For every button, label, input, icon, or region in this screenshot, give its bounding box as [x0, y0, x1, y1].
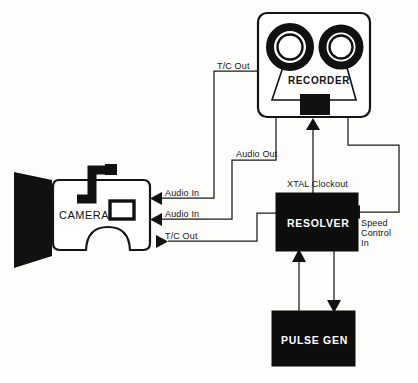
- arrowhead-camera-audio-in-2: [150, 213, 162, 226]
- block-diagram: CAMERA RECORDER RESOLVER PULSE GEN: [0, 0, 418, 383]
- wire-recorder-tc-out-to-camera-audio-in-1: [162, 71, 258, 198]
- label-speed-control-in-line-1: Speed: [361, 218, 388, 228]
- recorder-head-upper: [300, 94, 330, 104]
- recorder-device[interactable]: RECORDER: [258, 13, 370, 117]
- label-camera-audio-in-2: Audio In: [165, 209, 199, 219]
- resolver-label: RESOLVER: [287, 217, 350, 229]
- pulse-gen-device[interactable]: PULSE GEN: [272, 311, 355, 366]
- label-camera-tc-out: T/C Out: [165, 231, 198, 241]
- camera-viewfinder-tip: [105, 164, 117, 175]
- label-recorder-tc-out: T/C Out: [217, 61, 250, 71]
- camera-device[interactable]: CAMERA: [14, 164, 150, 268]
- arrowhead-recorder-xtal-clockout-in: [306, 118, 320, 130]
- label-speed-control-in-line-2: Control: [361, 228, 391, 238]
- resolver-device[interactable]: RESOLVER: [276, 193, 358, 251]
- label-recorder-audio-out: Audio Out: [236, 149, 278, 159]
- recorder-head-lower: [300, 104, 330, 115]
- label-xtal-clockout: XTAL Clockout: [287, 179, 348, 189]
- pulse-gen-label: PULSE GEN: [281, 334, 348, 346]
- arrowhead-camera-audio-in-1: [150, 192, 162, 205]
- label-camera-audio-in-1: Audio In: [165, 188, 199, 198]
- wire-recorder-audio-out-to-camera-audio-in-2: [162, 117, 276, 219]
- camera-label: CAMERA: [59, 209, 109, 221]
- recorder-label: RECORDER: [288, 75, 350, 86]
- label-speed-control-in-line-3: In: [361, 238, 369, 248]
- diagram-canvas: CAMERA RECORDER RESOLVER PULSE GEN: [0, 0, 418, 383]
